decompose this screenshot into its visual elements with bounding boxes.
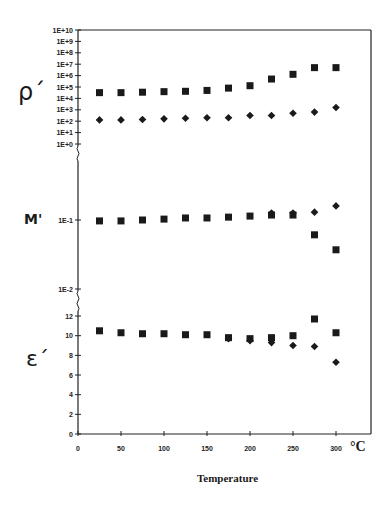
svg-text:1E-1: 1E-1 [58, 217, 73, 224]
rho-axis-label: ρ´ [18, 78, 45, 106]
svg-text:0: 0 [69, 431, 73, 438]
svg-text:200: 200 [244, 445, 256, 452]
y-axis-ticks: 1E+101E+91E+81E+71E+61E+51E+41E+31E+21E+… [53, 27, 81, 438]
svg-text:1E+9: 1E+9 [56, 38, 73, 45]
svg-text:100: 100 [158, 445, 170, 452]
svg-text:250: 250 [287, 445, 299, 452]
svg-text:1E+5: 1E+5 [56, 84, 73, 91]
svg-text:1E+8: 1E+8 [56, 49, 73, 56]
svg-text:1E+3: 1E+3 [56, 106, 73, 113]
svg-text:2: 2 [69, 411, 73, 418]
svg-text:50: 50 [117, 445, 125, 452]
svg-text:8: 8 [69, 352, 73, 359]
x-axis-title: Temperature [197, 472, 258, 484]
chart: 1E+101E+91E+81E+71E+61E+51E+41E+31E+21E+… [0, 0, 390, 506]
svg-text:0: 0 [76, 445, 80, 452]
svg-text:4: 4 [69, 391, 73, 398]
svg-text:10: 10 [65, 332, 73, 339]
m-axis-label: M' [24, 211, 42, 227]
x-unit-label: °C [350, 439, 366, 454]
svg-text:6: 6 [69, 372, 73, 379]
svg-text:1E+6: 1E+6 [56, 72, 73, 79]
svg-text:1E+2: 1E+2 [56, 118, 73, 125]
svg-text:1E+1: 1E+1 [56, 129, 73, 136]
svg-text:150: 150 [201, 445, 213, 452]
svg-text:1E+10: 1E+10 [53, 27, 74, 34]
epsilon-axis-label: ε´ [26, 346, 49, 371]
svg-text:12: 12 [65, 313, 73, 320]
data-points [96, 64, 340, 366]
svg-text:1E+7: 1E+7 [56, 61, 73, 68]
svg-text:1E+4: 1E+4 [56, 95, 73, 102]
svg-text:1E+0: 1E+0 [56, 141, 73, 148]
svg-text:1E-2: 1E-2 [58, 286, 73, 293]
svg-text:300: 300 [330, 445, 342, 452]
